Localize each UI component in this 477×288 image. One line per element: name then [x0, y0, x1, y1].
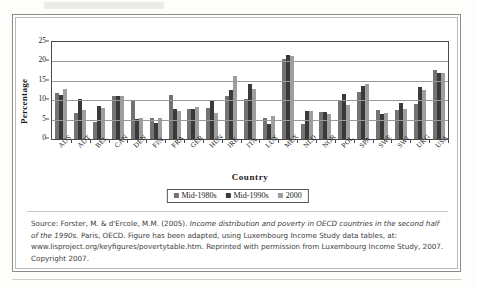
- bar: [365, 84, 369, 139]
- y-tick-mark: [46, 79, 49, 80]
- bar-group: [203, 42, 222, 139]
- bar-group: [109, 42, 128, 139]
- legend-label: Mid-1990s: [234, 191, 269, 200]
- legend-swatch: [173, 193, 178, 198]
- bars-layer: [52, 42, 448, 139]
- y-tick-label: 15: [39, 76, 47, 84]
- bar: [441, 73, 445, 139]
- gridline: [52, 81, 448, 82]
- legend-swatch: [278, 193, 283, 198]
- bar-group: [354, 42, 373, 139]
- y-tick-mark: [46, 60, 49, 61]
- legend-swatch: [226, 193, 231, 198]
- legend-item: Mid-1980s: [173, 191, 216, 200]
- bar: [252, 89, 256, 139]
- bar-group: [429, 42, 448, 139]
- chart: Percentage 0510152025 AUSAUTBELCANDENFIN…: [13, 15, 462, 211]
- source-caption: Source: Forster, M. & d'Ercole, M.M. (20…: [31, 218, 446, 264]
- y-tick-mark: [46, 41, 49, 42]
- y-tick-mark: [46, 99, 49, 100]
- caption-part-1: Source: Forster, M. & d'Ercole, M.M. (20…: [31, 219, 190, 228]
- bar-group: [241, 42, 260, 139]
- figure-page: Percentage 0510152025 AUSAUTBELCANDENFIN…: [0, 0, 477, 288]
- bar-group: [90, 42, 109, 139]
- y-tick-mark: [46, 138, 49, 139]
- legend-item: Mid-1990s: [226, 191, 269, 200]
- y-tick-label: 10: [39, 95, 47, 103]
- bar-group: [335, 42, 354, 139]
- x-axis-labels: AUSAUTBELCANDENFINFRAGERHUNIREITALUXMEXN…: [51, 142, 449, 170]
- bar-group: [316, 42, 335, 139]
- bar-group: [146, 42, 165, 139]
- x-axis-title: Country: [51, 172, 449, 182]
- plot-area: [51, 41, 449, 140]
- bar: [233, 76, 237, 139]
- bar-group: [52, 42, 71, 139]
- bar-group: [410, 42, 429, 139]
- bar: [422, 90, 426, 139]
- bar: [63, 89, 67, 139]
- bar-group: [222, 42, 241, 139]
- bar-group: [184, 42, 203, 139]
- caption-divider: [27, 211, 448, 212]
- bar-group: [71, 42, 90, 139]
- bar: [290, 56, 294, 139]
- caption-part-2: . Paris, OECD. Figure has been adapted, …: [31, 231, 443, 263]
- bar-group: [373, 42, 392, 139]
- legend-label: 2000: [286, 191, 302, 200]
- page-bottom-rule: [12, 279, 461, 280]
- y-axis-ticks: 0510152025: [31, 41, 49, 140]
- gridline: [52, 61, 448, 62]
- bar-group: [259, 42, 278, 139]
- gridline: [52, 100, 448, 101]
- bar-group: [165, 42, 184, 139]
- chart-legend: Mid-1980sMid-1990s2000: [166, 189, 308, 203]
- bar-group: [391, 42, 410, 139]
- y-tick-label: 25: [39, 37, 47, 45]
- legend-item: 2000: [278, 191, 302, 200]
- bar-group: [297, 42, 316, 139]
- y-tick-mark: [46, 118, 49, 119]
- legend-label: Mid-1980s: [181, 191, 216, 200]
- y-tick-label: 20: [39, 57, 47, 65]
- figure-container: Percentage 0510152025 AUSAUTBELCANDENFIN…: [12, 14, 461, 272]
- bar-group: [278, 42, 297, 139]
- gridline: [52, 120, 448, 121]
- page-top-artifact: [44, 2, 164, 9]
- bar-group: [127, 42, 146, 139]
